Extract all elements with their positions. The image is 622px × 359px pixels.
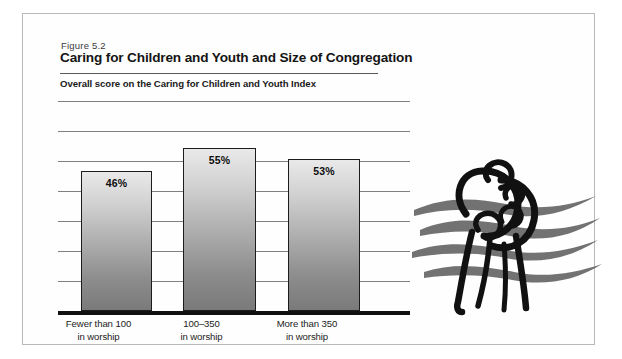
figure-outlines — [457, 162, 534, 312]
category-label-line-2: in worship — [253, 331, 361, 344]
gridline-1 — [58, 101, 410, 102]
category-label-line-1: Fewer than 100 — [46, 318, 151, 331]
bar-100-350: 55% — [183, 148, 256, 311]
category-label-line-2: in worship — [149, 331, 254, 344]
title-divider-rule — [60, 73, 378, 74]
bar-value-label-2: 55% — [184, 154, 255, 166]
category-label-more-than-350: More than 350 in worship — [253, 318, 361, 343]
figure-container: Figure 5.2 Caring for Children and Youth… — [22, 13, 595, 345]
category-label-100-350: 100–350 in worship — [149, 318, 254, 343]
family-brushstroke-illustration — [406, 152, 606, 317]
figure-subtitle: Overall score on the Caring for Children… — [60, 78, 316, 89]
bar-chart-plot-area: 46% 55% 53% — [58, 99, 410, 314]
bar-more-than-350: 53% — [288, 159, 360, 311]
bar-fewer-than-100: 46% — [81, 171, 152, 311]
category-label-line-1: More than 350 — [253, 318, 361, 331]
category-label-line-2: in worship — [46, 331, 151, 344]
gridline-2 — [58, 131, 410, 132]
bar-value-label-3: 53% — [289, 165, 359, 177]
category-label-fewer-than-100: Fewer than 100 in worship — [46, 318, 151, 343]
x-axis-baseline — [58, 311, 410, 315]
category-label-line-1: 100–350 — [149, 318, 254, 331]
bar-value-label-1: 46% — [82, 177, 151, 189]
figure-title: Caring for Children and Youth and Size o… — [60, 50, 412, 65]
